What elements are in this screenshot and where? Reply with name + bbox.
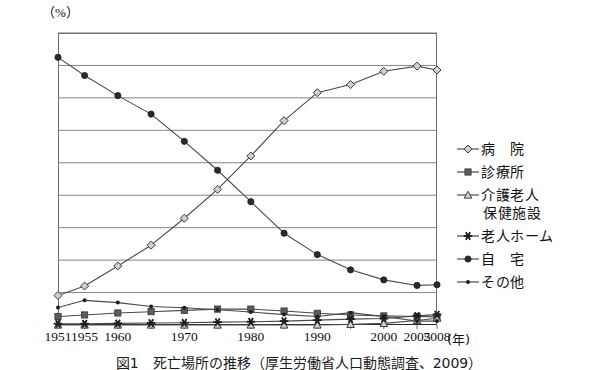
triangle-marker-icon — [455, 186, 481, 204]
legend-item-home: 自 宅 — [455, 250, 595, 270]
x-axis-unit-label: (年) — [447, 329, 470, 348]
star-marker-icon — [455, 227, 481, 245]
series-4 — [55, 54, 440, 288]
x-tick-label: 1955 — [71, 329, 98, 344]
x-tick-label: 1970 — [171, 329, 198, 344]
legend-label-care-facility-line1: 介護老人 — [481, 187, 539, 203]
figure-caption: 図1 死亡場所の推移（厚生労働省人口動態調査、2009） — [0, 352, 598, 370]
figure-death-place-trend: （%） 90.050.010.00 1951195519601970198019… — [0, 0, 598, 370]
x-tick-label: 1960 — [104, 329, 131, 344]
diamond-marker-icon — [455, 140, 481, 158]
legend-label-other: その他 — [481, 273, 525, 291]
legend-item-clinic: 診療所 — [455, 163, 595, 183]
legend-label-clinic: 診療所 — [481, 163, 525, 181]
x-tick-label: 1980 — [237, 329, 264, 344]
square-marker-icon — [455, 163, 481, 181]
x-tick-label: 1990 — [304, 329, 331, 344]
legend-item-nursing-home: 老人ホーム — [455, 227, 595, 247]
filled-circle-marker-icon — [455, 250, 481, 268]
legend-label-care-facility: 介護老人保健施設 — [481, 186, 541, 222]
legend-label-home: 自 宅 — [481, 250, 525, 268]
series-group — [54, 54, 442, 328]
x-tick-label: 2000 — [370, 329, 397, 344]
dot-marker-icon — [455, 273, 481, 291]
legend-label-nursing-home: 老人ホーム — [481, 227, 554, 245]
legend-label-hospital: 病 院 — [481, 140, 525, 158]
legend-item-care-facility: 介護老人保健施設 — [455, 186, 595, 224]
y-axis-tick-labels: 90.050.010.00 — [0, 0, 55, 370]
legend-label-care-facility-line2: 保健施設 — [483, 204, 541, 222]
chart-legend: 病 院 診療所 介護老人保健施設 老人ホーム 自 宅 その他 — [455, 140, 595, 296]
x-tick-label: 1951 — [45, 329, 72, 344]
x-axis-tick-labels: 195119551960197019801990200020052008 — [0, 329, 598, 351]
legend-item-hospital: 病 院 — [455, 140, 595, 160]
legend-item-other: その他 — [455, 273, 595, 293]
